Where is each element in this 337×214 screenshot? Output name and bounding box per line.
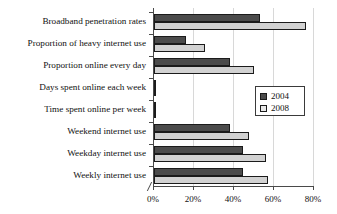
y-axis-tick-4 <box>149 100 153 101</box>
x-axis-tick-0 <box>153 186 154 190</box>
gridline-80 <box>313 8 314 186</box>
bar-2004-2 <box>154 58 230 66</box>
legend-label-2008: 2008 <box>271 103 289 113</box>
y-axis-tick-7 <box>149 166 153 167</box>
bar-2008-4 <box>154 110 156 118</box>
category-label-weekly-internet-use: Weekly internet use <box>0 170 146 180</box>
category-label-weekend-internet-use: Weekend internet use <box>0 126 146 136</box>
bar-2004-6 <box>154 146 243 154</box>
bar-2008-1 <box>154 44 205 52</box>
x-axis-tick-80 <box>313 186 314 190</box>
legend-swatch-icon-2008 <box>260 105 267 112</box>
category-label-proportion-of-heavy-internet-use: Proportion of heavy internet use <box>0 38 146 48</box>
legend-entry-2008: 2008 <box>260 102 304 114</box>
x-axis-label-80: 80% <box>293 194 333 204</box>
category-label-broadband-penetration-rates: Broadband penetration rates <box>0 16 146 26</box>
y-axis-tick-0 <box>149 12 153 13</box>
category-label-time-spent-online-per-week: Time spent online per week <box>0 104 146 114</box>
category-label-proportion-online-every-day: Proportion online every day <box>0 60 146 70</box>
x-axis-label-60: 60% <box>253 194 293 204</box>
bar-2008-2 <box>154 66 254 74</box>
legend-entry-2004: 2004 <box>260 90 304 102</box>
legend-swatch-icon-2004 <box>260 93 267 100</box>
bar-2004-7 <box>154 168 243 176</box>
y-axis-tick-6 <box>149 144 153 145</box>
legend-label-2004: 2004 <box>271 91 289 101</box>
category-label-days-spent-online-each-week: Days spent online each week <box>0 82 146 92</box>
category-label-weekday-internet-use: Weekday internet use <box>0 148 146 158</box>
x-axis-label-40: 40% <box>213 194 253 204</box>
bar-2008-0 <box>154 22 306 30</box>
bar-2008-6 <box>154 154 266 162</box>
y-axis-tick-2 <box>149 56 153 57</box>
bar-2004-0 <box>154 14 260 22</box>
bar-2008-3 <box>154 88 156 96</box>
bar-chart: Broadband penetration rates Proportion o… <box>0 0 337 214</box>
x-axis-label-0: 0% <box>133 194 173 204</box>
y-axis-tick-5 <box>149 122 153 123</box>
bar-2008-7 <box>154 176 268 184</box>
y-axis-tick-1 <box>149 34 153 35</box>
chart-legend: 2004 2008 <box>255 86 305 116</box>
y-axis-tick-3 <box>149 78 153 79</box>
bar-2004-3 <box>154 80 156 88</box>
bar-2008-5 <box>154 132 249 140</box>
bar-2004-4 <box>154 102 156 110</box>
x-axis-tick-20 <box>193 186 194 190</box>
x-axis-label-20: 20% <box>173 194 213 204</box>
bar-2004-5 <box>154 124 230 132</box>
bar-2004-1 <box>154 36 186 44</box>
x-axis-tick-40 <box>233 186 234 190</box>
x-axis-tick-60 <box>273 186 274 190</box>
category-axis-labels: Broadband penetration rates Proportion o… <box>0 12 150 186</box>
